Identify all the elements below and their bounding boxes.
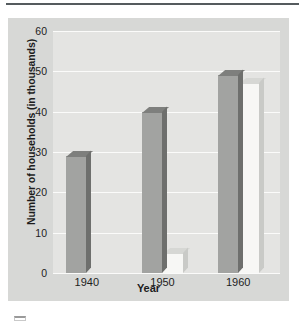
bar	[66, 156, 86, 273]
bar-side-face	[162, 106, 167, 273]
bar	[142, 112, 162, 273]
y-axis-title: Number of households (in thousands)	[25, 17, 37, 247]
y-tick-label: 40	[35, 106, 47, 118]
bar-side-face	[238, 70, 243, 273]
header-divider-rule	[6, 3, 299, 5]
scan-artifact-mark	[14, 316, 26, 321]
x-tick-label: 1950	[150, 276, 174, 288]
bar-side-face	[86, 150, 91, 273]
y-tick-label: 20	[35, 186, 47, 198]
bar-side-face	[183, 247, 188, 273]
bar-front-face	[142, 112, 162, 273]
gridline-0: 0	[53, 273, 280, 274]
plot-area: 0102030405060	[53, 31, 280, 273]
bar-group	[66, 31, 107, 273]
y-tick-label: 60	[35, 25, 47, 37]
bar-side-face	[259, 78, 264, 273]
bar-chart-figure: Number of households (in thousands) 0102…	[8, 18, 289, 301]
bar-group	[218, 31, 259, 273]
bar-group	[142, 31, 183, 273]
y-tick-label: 30	[35, 146, 47, 158]
x-tick-label: 1940	[75, 276, 99, 288]
bar-front-face	[66, 156, 86, 273]
bar	[218, 75, 238, 273]
x-tick-label: 1960	[226, 276, 250, 288]
y-tick-label: 0	[41, 267, 47, 279]
y-tick-label: 10	[35, 227, 47, 239]
bar-front-face	[218, 75, 238, 273]
y-tick-label: 50	[35, 65, 47, 77]
